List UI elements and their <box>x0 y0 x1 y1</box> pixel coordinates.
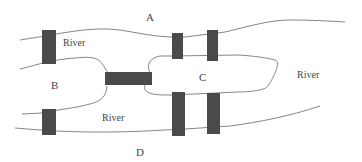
river-label-upper-left: River <box>63 38 85 48</box>
konigsberg-bridges-diagram: A B C D River River River <box>0 0 362 162</box>
bridge-2 <box>172 33 183 59</box>
region-label-c: C <box>199 72 206 83</box>
bridge-6 <box>172 92 185 136</box>
bridge-1 <box>42 30 56 64</box>
region-label-b: B <box>51 80 58 91</box>
b-lower-bank-line <box>22 86 107 114</box>
b-upper-bank-line <box>20 57 110 76</box>
bridge-5 <box>42 109 56 135</box>
bridge-7 <box>207 93 220 134</box>
river-label-right: River <box>297 70 319 80</box>
bridge-3 <box>207 30 218 61</box>
river-label-lower: River <box>102 113 124 123</box>
bridge-4 <box>105 72 152 85</box>
region-label-d: D <box>136 147 144 158</box>
region-label-a: A <box>146 12 154 23</box>
